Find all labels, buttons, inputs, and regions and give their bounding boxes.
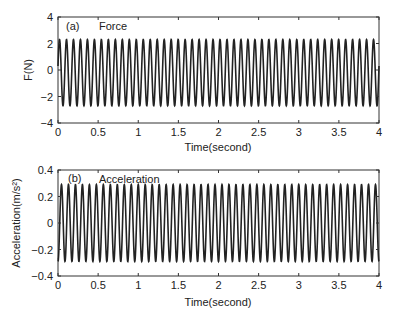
y-axis-label-a: F(N) — [22, 59, 34, 81]
x-tick-label: 0 — [55, 279, 61, 291]
y-tick-label: 4 — [47, 11, 53, 23]
x-tick-label: 0.5 — [90, 126, 105, 138]
panel-tag-a: (a) — [66, 20, 79, 32]
x-axis-label-a: Time(second) — [185, 141, 252, 153]
x-tick-label: 2.5 — [251, 279, 266, 291]
x-tick-label: 4 — [376, 279, 382, 291]
y-tick-label: 0 — [47, 64, 53, 76]
x-tick-label: 3 — [296, 279, 302, 291]
x-tick-label: 2.5 — [251, 126, 266, 138]
y-axis-label-b: Acceleration(m/s²) — [10, 178, 22, 267]
x-axis-label-b: Time(second) — [185, 296, 252, 308]
x-tick-label: 3.5 — [331, 126, 346, 138]
y-tick-label: −0.4 — [31, 270, 53, 282]
force-line — [58, 40, 379, 106]
x-tick-label: 3.5 — [331, 279, 346, 291]
panel-b: 00.511.522.533.540.40.20−0.2−0.4 (b) Acc… — [10, 164, 382, 308]
x-tick-label: 2 — [215, 279, 221, 291]
y-tick-label: 2 — [47, 38, 53, 50]
y-tick-label: 0.2 — [38, 191, 53, 203]
x-tick-label: 0.5 — [90, 279, 105, 291]
x-tick-label: 1 — [135, 126, 141, 138]
y-tick-label: −4 — [40, 117, 53, 129]
x-tick-label: 0 — [55, 126, 61, 138]
x-tick-label: 2 — [215, 126, 221, 138]
acceleration-line — [58, 185, 379, 262]
y-tick-label: −2 — [40, 91, 53, 103]
x-tick-label: 1 — [135, 279, 141, 291]
x-tick-label: 4 — [376, 126, 382, 138]
y-tick-label: 0 — [47, 217, 53, 229]
x-tick-label: 1.5 — [171, 126, 186, 138]
y-tick-label: −0.2 — [31, 244, 53, 256]
panel-tag-b: (b) — [68, 172, 81, 184]
figure: 00.511.522.533.54420−2−4 (a) Force Time(… — [0, 0, 393, 316]
panel-title-b: Acceleration — [99, 173, 160, 185]
panel-a: 00.511.522.533.54420−2−4 (a) Force Time(… — [22, 11, 382, 153]
panel-title-a: Force — [99, 20, 127, 32]
x-tick-label: 1.5 — [171, 279, 186, 291]
x-tick-label: 3 — [296, 126, 302, 138]
y-tick-label: 0.4 — [38, 164, 53, 176]
